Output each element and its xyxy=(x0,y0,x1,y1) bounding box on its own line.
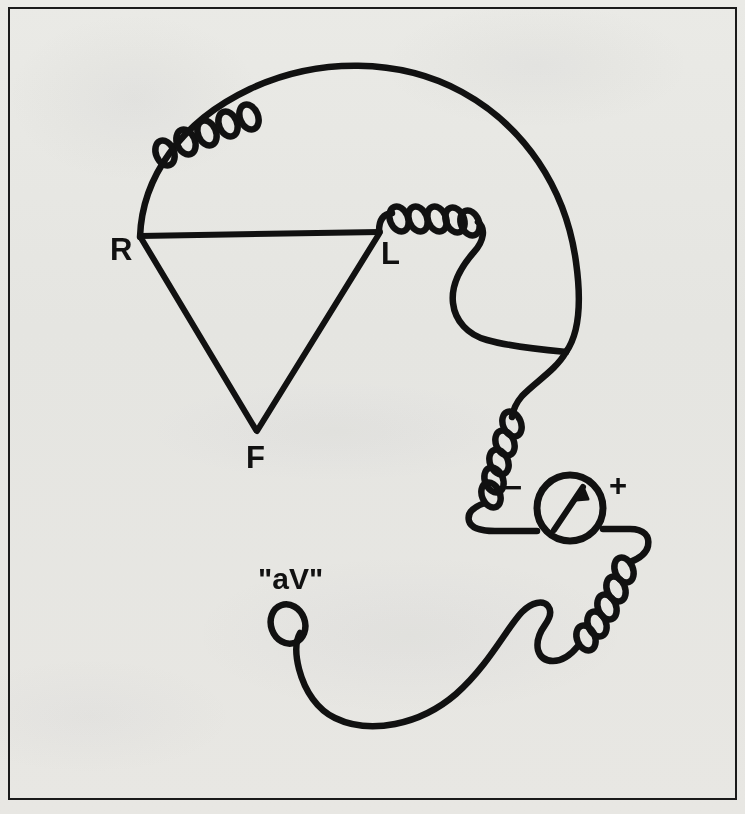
electrode-label-foot: F xyxy=(246,442,265,473)
wire-minus-terminal xyxy=(469,503,537,531)
galvanometer-positive-terminal-label: + xyxy=(609,470,627,501)
lead-wire-to-free-end xyxy=(296,603,578,727)
free-end-loop xyxy=(265,599,311,648)
figure-page: R L F − + "aV" xyxy=(0,0,745,814)
lead-name-label: "aV" xyxy=(258,562,323,596)
wire-junction-to-meter xyxy=(512,352,566,417)
electrode-label-right-arm: R xyxy=(110,234,132,265)
coil-left-arm xyxy=(386,204,483,239)
galvanometer-needle-head xyxy=(576,487,588,500)
triangle-side-l-to-f xyxy=(257,234,379,431)
galvanometer-negative-terminal-label: − xyxy=(504,472,522,503)
triangle-side-r-to-f xyxy=(141,238,256,430)
coil-meter-plus xyxy=(573,555,637,654)
torso-outline-arc xyxy=(140,66,579,352)
triangle-side-r-to-l xyxy=(140,232,380,236)
wire-left-arm-to-junction xyxy=(453,222,566,352)
av-lead-diagram xyxy=(0,0,745,814)
electrode-label-left-arm: L xyxy=(381,238,400,269)
